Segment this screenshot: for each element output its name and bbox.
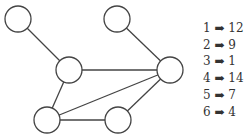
legend-row: 4 ➡ 14: [203, 70, 244, 87]
graph-node: [56, 57, 82, 83]
mapping-legend: 1 ➡ 12 2 ➡ 9 3 ➡ 1 4 ➡ 14 5 ➡ 7 6 ➡ 4: [203, 20, 244, 120]
arrow-icon: ➡: [214, 105, 224, 119]
graph-node: [105, 107, 131, 133]
arrow-icon: ➡: [214, 21, 224, 35]
graph-node: [5, 6, 31, 32]
legend-row: 5 ➡ 7: [203, 87, 244, 104]
arrow-icon: ➡: [214, 71, 224, 85]
arrow-icon: ➡: [214, 88, 224, 102]
legend-row: 2 ➡ 9: [203, 37, 244, 54]
legend-row: 1 ➡ 12: [203, 20, 244, 37]
legend-row: 6 ➡ 4: [203, 104, 244, 121]
legend-row: 3 ➡ 1: [203, 53, 244, 70]
graph-node: [104, 6, 130, 32]
graph-node: [157, 57, 183, 83]
arrow-icon: ➡: [214, 38, 224, 52]
arrow-icon: ➡: [214, 54, 224, 68]
graph-node: [34, 107, 60, 133]
